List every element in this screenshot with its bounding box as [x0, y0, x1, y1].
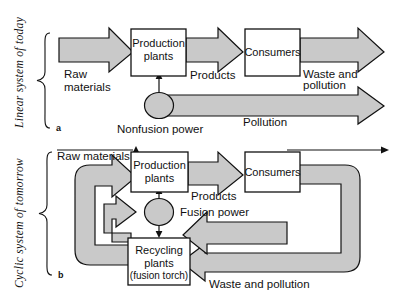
panel-b-marker: b [58, 270, 64, 280]
panel-b-side-label: Cyclic system of tomorrow [13, 158, 26, 288]
box-consumers-a-line1: Consumers [244, 46, 301, 58]
label-waste-a-line2: pollution [303, 79, 346, 91]
label-raw-materials-a-line1: Raw [64, 68, 88, 80]
label-fusion-power-b: Fusion power [180, 206, 249, 218]
label-pollution-a: Pollution [243, 116, 287, 128]
label-raw-materials-b: Raw materials [57, 150, 130, 162]
box-production-plants-a-line1: Production [132, 37, 185, 49]
label-products-b: Products [191, 190, 237, 202]
box-consumers-b-line1: Consumers [244, 166, 301, 178]
label-raw-materials-a-line2: materials [64, 81, 111, 93]
node-fusion-power [145, 199, 174, 226]
label-products-a: Products [190, 69, 236, 81]
label-nonfusion-power-a: Nonfusion power [117, 123, 203, 135]
box-recycling-plants-b-line2: plants [144, 257, 174, 269]
box-production-plants-a-line2: plants [144, 50, 174, 62]
box-recycling-plants-b-line1: Recycling [135, 244, 183, 256]
figure-canvas: Linear system of today a Production plan… [0, 0, 397, 302]
node-nonfusion-power [145, 93, 174, 119]
panel-a-side-label: Linear system of today [13, 16, 26, 129]
box-recycling-plants-b-line3: (fusion torch) [130, 270, 188, 281]
box-production-plants-b-line1: Production [133, 159, 186, 171]
box-production-plants-b-line2: plants [145, 172, 175, 184]
label-waste-b: Waste and pollution [209, 278, 310, 290]
